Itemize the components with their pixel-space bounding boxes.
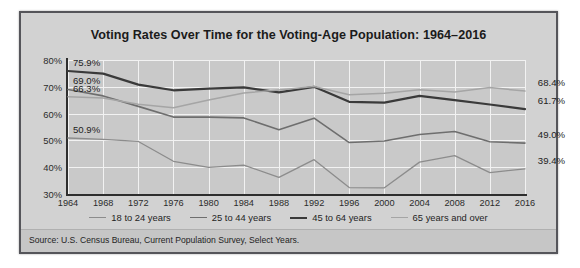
x-axis-tick-label: 1984 [234, 198, 254, 208]
legend-item[interactable]: 65 years and over [391, 212, 488, 223]
legend-line-icon [190, 217, 207, 218]
series-start-label: 66.3% [73, 82, 100, 93]
x-axis-tick-label: 1988 [269, 198, 289, 208]
source-note: Source: U.S. Census Bureau, Current Popu… [29, 235, 299, 245]
legend-line-icon [391, 217, 408, 218]
legend-line-icon [89, 217, 106, 218]
figure-container: Voting Rates Over Time for the Voting-Ag… [0, 0, 580, 268]
series-line [68, 138, 525, 188]
y-axis-tick-label: 50% [43, 135, 62, 146]
x-axis-tick-label: 2008 [444, 198, 464, 208]
source-band: Source: U.S. Census Bureau, Current Popu… [21, 229, 556, 252]
series-line [68, 89, 525, 143]
chart-card: Voting Rates Over Time for the Voting-Ag… [19, 11, 558, 254]
legend-item[interactable]: 45 to 64 years [290, 212, 371, 223]
x-axis-tick-label: 1976 [163, 198, 183, 208]
series-lines [68, 60, 525, 194]
series-end-label: 68.4% [538, 77, 565, 88]
series-start-label: 50.9% [73, 123, 100, 134]
grid-line-vertical [525, 60, 526, 194]
legend-label: 25 to 44 years [212, 212, 271, 223]
y-axis-tick-label: 80% [43, 55, 62, 66]
x-axis-tick-label: 1968 [93, 198, 113, 208]
legend-item[interactable]: 18 to 24 years [89, 212, 170, 223]
chart-title: Voting Rates Over Time for the Voting-Ag… [21, 28, 556, 42]
x-axis-tick-label: 1996 [339, 198, 359, 208]
series-end-label: 49.0% [538, 129, 565, 140]
legend-item[interactable]: 25 to 44 years [190, 212, 271, 223]
legend-label: 45 to 64 years [312, 212, 371, 223]
y-axis-tick-label: 40% [43, 162, 62, 173]
x-axis-tick-label: 2004 [409, 198, 429, 208]
series-end-label: 39.4% [538, 154, 565, 165]
x-axis-tick-label: 1964 [58, 198, 78, 208]
x-axis-tick-label: 2000 [374, 198, 394, 208]
y-axis-tick-label: 70% [43, 81, 62, 92]
x-axis-tick-label: 1980 [198, 198, 218, 208]
plot-area: 30%40%50%60%70%80% 196419681972197619801… [68, 60, 525, 194]
chart-legend: 18 to 24 years25 to 44 years45 to 64 yea… [21, 212, 556, 223]
series-end-label: 61.7% [538, 95, 565, 106]
legend-label: 65 years and over [413, 212, 488, 223]
x-axis-tick-label: 1992 [304, 198, 324, 208]
legend-label: 18 to 24 years [111, 212, 170, 223]
x-axis-line [66, 194, 527, 196]
x-axis-tick-label: 1972 [128, 198, 148, 208]
x-axis-tick-label: 2016 [515, 198, 535, 208]
legend-line-icon [290, 217, 307, 219]
x-axis-tick-label: 2012 [480, 198, 500, 208]
y-axis-tick-label: 60% [43, 108, 62, 119]
series-start-label: 75.9% [73, 56, 100, 67]
